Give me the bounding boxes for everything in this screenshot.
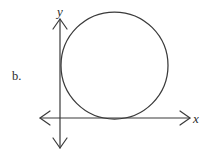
coordinate-plane-figure: y x b.	[0, 0, 208, 152]
figure-container: y x b.	[0, 0, 208, 152]
figure-item-label: b.	[12, 69, 21, 83]
plotted-circle	[61, 12, 168, 119]
y-axis-label: y	[55, 4, 63, 19]
x-axis-label: x	[192, 111, 199, 126]
